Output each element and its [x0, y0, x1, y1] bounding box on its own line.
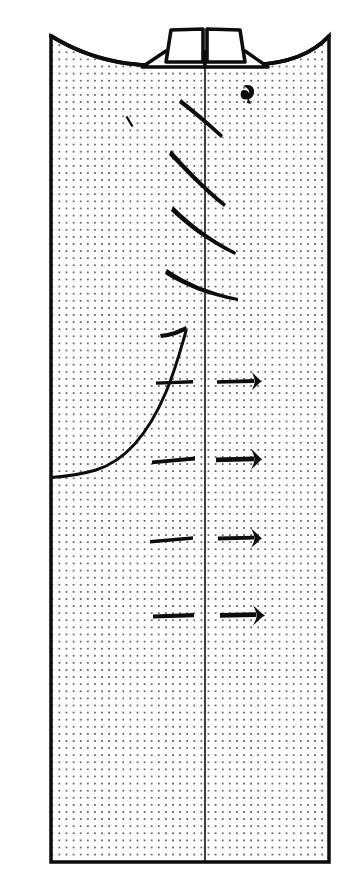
figure-svg	[0, 0, 363, 893]
left-fixture-box	[166, 29, 203, 62]
right-fixture-box	[207, 29, 245, 62]
main-panel	[51, 36, 329, 862]
figure-root	[0, 0, 363, 893]
top-fixtures-group	[142, 29, 268, 68]
panel-stipple-fill	[51, 36, 329, 862]
